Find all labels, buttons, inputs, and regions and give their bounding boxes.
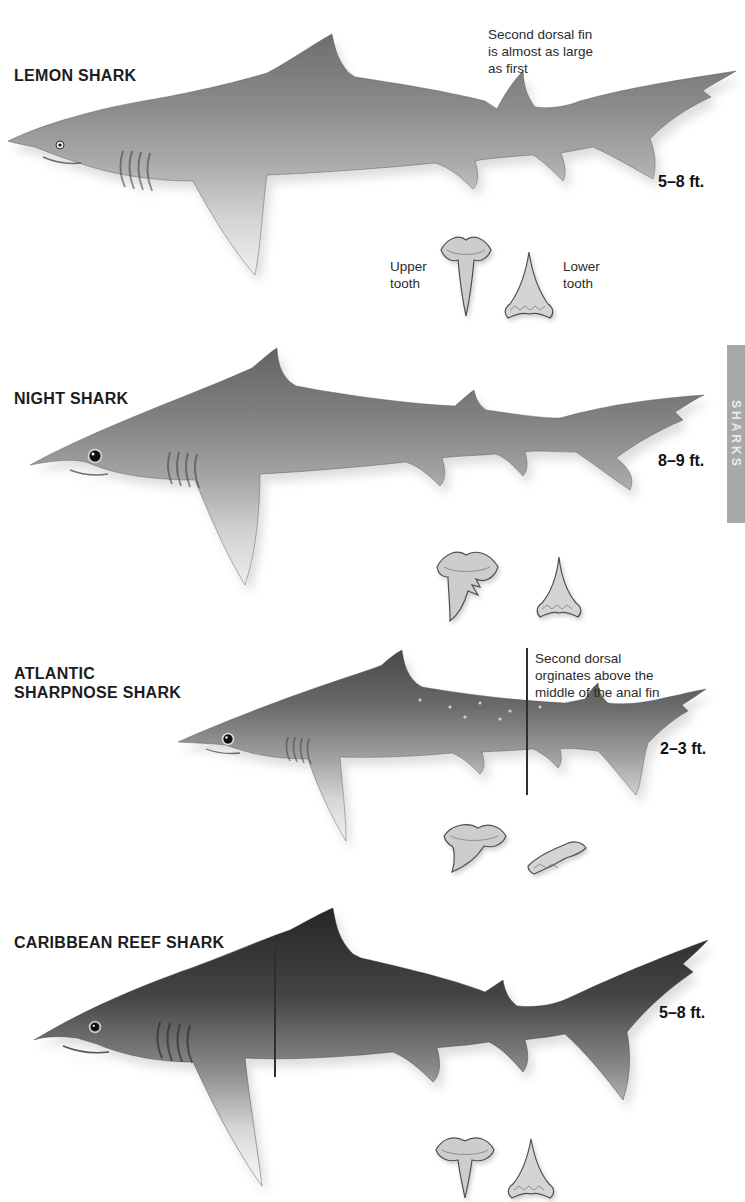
lemon-shark-illustration <box>5 23 743 293</box>
atlantic-sharpnose-lower-tooth-illustration <box>522 838 590 878</box>
night-shark-upper-tooth-illustration <box>432 545 504 625</box>
lemon-shark-title: LEMON SHARK <box>14 66 136 85</box>
night-shark-lower-tooth-illustration <box>530 553 588 623</box>
atlantic-sharpnose-pointer-line <box>526 648 528 795</box>
night-shark-size: 8–9 ft. <box>658 452 704 470</box>
field-guide-page: LEMON SHARK Second dorsal fin is almost … <box>0 0 745 1202</box>
lemon-shark-lower-tooth-illustration <box>500 248 558 322</box>
atlantic-sharpnose-mouth <box>206 749 240 754</box>
caribbean-reef-lower-tooth-illustration <box>503 1136 559 1202</box>
night-shark-eye <box>89 450 102 463</box>
atlantic-sharpnose-shark-title: ATLANTIC SHARPNOSE SHARK <box>14 664 181 702</box>
caribbean-reef-shark-size: 5–8 ft. <box>659 1004 705 1022</box>
caribbean-reef-mouth <box>63 1046 109 1053</box>
caribbean-reef-pointer-line <box>274 947 276 1077</box>
sharks-section-thumb-tab: SHARKS <box>727 345 745 523</box>
upper-tooth-label: Upper tooth <box>390 258 427 292</box>
sharks-thumb-tab-label: SHARKS <box>729 400 743 469</box>
caribbean-reef-eye <box>90 1022 101 1033</box>
atlantic-sharpnose-size: 2–3 ft. <box>660 740 706 758</box>
lemon-shark-size: 5–8 ft. <box>658 173 704 191</box>
night-shark-title: NIGHT SHARK <box>14 389 128 408</box>
night-shark-mouth <box>70 470 108 475</box>
atlantic-sharpnose-upper-tooth-illustration <box>438 818 510 878</box>
atlantic-sharpnose-annotation: Second dorsal orginates above the middle… <box>535 650 660 701</box>
night-shark-illustration <box>20 340 725 595</box>
atlantic-sharpnose-eye <box>223 734 234 745</box>
lemon-shark-upper-tooth-illustration <box>437 230 495 320</box>
caribbean-reef-shark-title: CARIBBEAN REEF SHARK <box>14 933 224 952</box>
lemon-shark-annotation: Second dorsal fin is almost as large as … <box>488 26 593 77</box>
lemon-shark-eye <box>56 141 64 149</box>
lower-tooth-label: Lower tooth <box>563 258 600 292</box>
caribbean-reef-upper-tooth-illustration <box>432 1132 498 1202</box>
